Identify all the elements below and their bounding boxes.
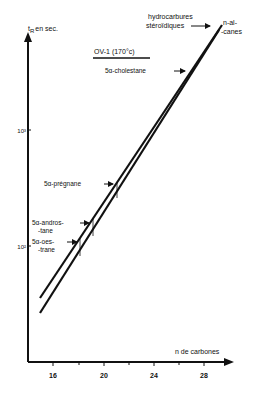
annotation-hydro: stéroïdiques [146,22,185,30]
y-axis-label: tRen sec. [28,25,58,34]
annotation-hydro: hydrocarbures [148,13,193,21]
annotation-pregnane: 5α-prégnane [44,180,81,188]
annotation-cholestane: 5α-cholestane [105,67,146,74]
x-tick-label: 28 [200,372,208,379]
annotation-oestrane: -trane [38,246,55,253]
chart-title: OV-1 (170°c) [94,48,135,56]
y-tick-label-lower: 10² [17,244,26,250]
x-tick-label: 24 [150,372,158,379]
x-axis-label: n de carbones [175,348,220,355]
annotation-androstane: -tane [38,227,53,234]
annotation-nalcanes: n-al- [223,19,238,26]
x-tick-label: 16 [49,372,57,379]
x-axis-arrow-icon [224,358,234,366]
chart: 16 20 24 28 10³ 10² tRen sec. OV-1 (170°… [0,0,261,394]
annotation-oestrane: 5α-oes- [32,238,54,245]
y-tick-label-upper: 10³ [17,128,26,134]
series-n-alcanes [40,25,222,298]
annotation-androstane: 5α-andros- [32,219,64,226]
annotation-nalcanes: -canes [221,28,243,35]
x-tick-label: 20 [100,372,108,379]
